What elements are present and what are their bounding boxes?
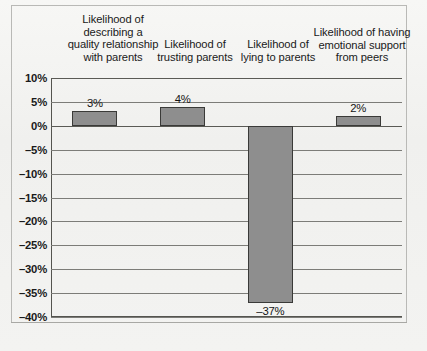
- y-tick-label--5: –5%: [7, 144, 47, 156]
- bottom-rule: [11, 322, 407, 323]
- y-tick-label--25: –25%: [7, 239, 47, 251]
- bar-value-label-0: 3%: [57, 97, 132, 109]
- y-tick-label-0: 0%: [7, 120, 47, 132]
- bar-value-label-2: –37%: [233, 305, 308, 317]
- y-axis: 10%5%0%–5%–10%–15%–20%–25%–30%–35%–40%: [4, 78, 47, 317]
- bar-3: [336, 116, 381, 126]
- gridline--10: [51, 174, 402, 175]
- gridline--40: [51, 317, 402, 318]
- category-label-3: Likelihood of having emotional support f…: [306, 26, 418, 64]
- bar-2: [248, 126, 293, 303]
- y-tick-label--15: –15%: [7, 192, 47, 204]
- gridline--15: [51, 198, 402, 199]
- y-tick-label-10: 10%: [7, 72, 47, 84]
- gridline-10: [51, 78, 402, 79]
- bar-1: [160, 107, 205, 126]
- y-tick-label--30: –30%: [7, 263, 47, 275]
- bar-0: [72, 111, 117, 125]
- y-tick-label--20: –20%: [7, 215, 47, 227]
- y-tick-label--10: –10%: [7, 168, 47, 180]
- bar-value-label-1: 4%: [145, 93, 220, 105]
- y-tick-label--35: –35%: [7, 287, 47, 299]
- gridline-0: [51, 126, 402, 127]
- chart-screenshot: Likelihood of describing a quality relat…: [0, 0, 427, 351]
- plot-area: 3%4%–37%2%: [51, 78, 402, 317]
- gridline--5: [51, 150, 402, 151]
- gridline--25: [51, 245, 402, 246]
- y-tick-label-5: 5%: [7, 96, 47, 108]
- gridline--30: [51, 269, 402, 270]
- y-tick-label--40: –40%: [7, 311, 47, 323]
- gridline--20: [51, 221, 402, 222]
- bar-value-label-3: 2%: [321, 102, 396, 114]
- gridline--35: [51, 293, 402, 294]
